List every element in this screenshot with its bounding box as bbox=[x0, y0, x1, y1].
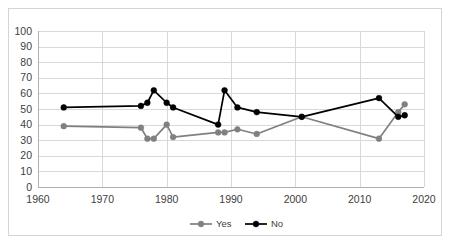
x-axis-tick-label: 1990 bbox=[219, 193, 243, 205]
y-axis-tick-label: 40 bbox=[20, 118, 32, 130]
legend-item-no[interactable]: No bbox=[245, 218, 283, 229]
x-axis-tick-label: 1970 bbox=[91, 193, 115, 205]
line-chart: 0102030405060708090100 19601970198019902… bbox=[0, 0, 452, 246]
data-point bbox=[61, 105, 67, 111]
data-point bbox=[215, 122, 221, 128]
legend-label: Yes bbox=[216, 218, 232, 229]
x-axis-tick-label: 2010 bbox=[348, 193, 372, 205]
data-point bbox=[254, 131, 260, 137]
data-point bbox=[144, 136, 150, 142]
data-point bbox=[164, 122, 170, 128]
x-axis-tick-label: 1960 bbox=[26, 193, 50, 205]
y-axis-tick-label: 20 bbox=[20, 149, 32, 161]
legend-item-yes[interactable]: Yes bbox=[190, 218, 232, 229]
x-axis-tick-labels: 1960197019801990200020102020 bbox=[26, 193, 436, 205]
x-axis-tick-label: 2020 bbox=[412, 193, 436, 205]
y-axis-tick-labels: 0102030405060708090100 bbox=[14, 25, 32, 193]
data-point bbox=[215, 130, 221, 136]
data-point bbox=[138, 125, 144, 131]
y-axis-tick-label: 60 bbox=[20, 87, 32, 99]
data-point bbox=[170, 134, 176, 140]
chart-legend: YesNo bbox=[190, 218, 283, 229]
x-axis-tick-label: 2000 bbox=[284, 193, 308, 205]
legend-label: No bbox=[271, 218, 283, 229]
y-axis-tick-label: 10 bbox=[20, 165, 32, 177]
data-point bbox=[170, 105, 176, 111]
data-point bbox=[395, 114, 401, 120]
data-point bbox=[164, 100, 170, 106]
y-axis-tick-label: 50 bbox=[20, 103, 32, 115]
data-point bbox=[402, 101, 408, 107]
x-axis-tick-label: 1980 bbox=[155, 193, 179, 205]
data-point bbox=[254, 109, 260, 115]
y-axis-tick-label: 100 bbox=[14, 25, 32, 37]
legend-marker-icon bbox=[253, 221, 259, 227]
legend-marker-icon bbox=[198, 221, 204, 227]
data-point bbox=[402, 112, 408, 118]
data-series-layer bbox=[61, 87, 408, 141]
data-point bbox=[235, 105, 241, 111]
data-point bbox=[222, 87, 228, 93]
y-axis-tick-label: 80 bbox=[20, 56, 32, 68]
y-axis-tick-label: 70 bbox=[20, 71, 32, 83]
data-point bbox=[376, 95, 382, 101]
data-point bbox=[61, 123, 67, 129]
data-point bbox=[235, 126, 241, 132]
data-point bbox=[376, 136, 382, 142]
y-axis-tick-label: 90 bbox=[20, 40, 32, 52]
data-point bbox=[299, 114, 305, 120]
data-point bbox=[138, 103, 144, 109]
data-point bbox=[151, 87, 157, 93]
data-point bbox=[144, 100, 150, 106]
y-axis-tick-label: 0 bbox=[26, 181, 32, 193]
data-point bbox=[222, 130, 228, 136]
data-point bbox=[151, 136, 157, 142]
series-yes bbox=[61, 101, 408, 141]
y-axis-tick-label: 30 bbox=[20, 134, 32, 146]
